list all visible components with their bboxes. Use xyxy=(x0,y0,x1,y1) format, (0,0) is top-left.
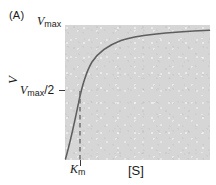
half-vmax-subscript: max xyxy=(27,88,44,98)
x-axis-title: [S] xyxy=(128,164,144,177)
plot-area xyxy=(65,25,210,160)
y-axis-title-text: V xyxy=(5,76,20,84)
panel-label: (A) xyxy=(9,9,24,21)
km-subscript: m xyxy=(78,167,85,177)
vmax-subscript: max xyxy=(44,19,61,29)
x-axis-km-label: Km xyxy=(70,163,85,177)
y-axis-vmax-label: Vmax xyxy=(37,15,61,29)
y-axis-half-vmax-label: Vmax/2 xyxy=(20,84,54,98)
figure-panel-a: (A) Vmax V Vmax/2 Km [S] xyxy=(0,0,216,185)
michaelis-menten-curve-svg xyxy=(65,25,210,160)
km-base: K xyxy=(70,162,78,176)
half-vmax-suffix: /2 xyxy=(44,83,54,97)
curve-path xyxy=(66,30,210,159)
